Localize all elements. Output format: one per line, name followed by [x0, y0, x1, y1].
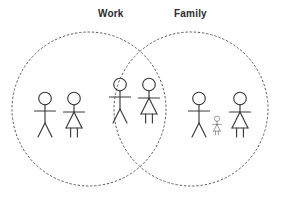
stick-figure-female[interactable]: [64, 92, 85, 137]
work-only-region: [35, 92, 85, 137]
venn-circles: [12, 32, 268, 186]
stick-figure-male[interactable]: [35, 92, 56, 137]
stick-figures-layer: [35, 78, 251, 137]
stick-figure-child[interactable]: [213, 116, 222, 135]
stick-figure-male[interactable]: [110, 78, 131, 123]
overlap-region: [110, 78, 160, 123]
venn-label-work: Work: [98, 8, 124, 20]
family-only-region: [189, 92, 251, 137]
stick-figure-female[interactable]: [139, 78, 160, 123]
venn-diagram-graphic: [0, 0, 281, 201]
stick-figure-female[interactable]: [230, 92, 251, 137]
venn-circle-family[interactable]: [114, 32, 268, 186]
venn-diagram-canvas: Work Family: [0, 0, 281, 201]
venn-label-family: Family: [174, 8, 207, 20]
stick-figure-male[interactable]: [189, 92, 210, 137]
